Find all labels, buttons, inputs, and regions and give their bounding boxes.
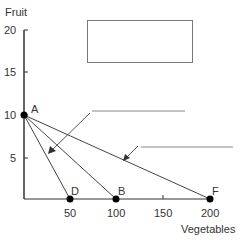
empty-annotation-box xyxy=(88,21,193,63)
x-tick-label-200: 200 xyxy=(201,208,219,219)
point-label-a: A xyxy=(31,104,38,115)
x-axis-label: Vegetables xyxy=(181,224,235,235)
x-tick-label-150: 150 xyxy=(154,208,172,219)
y-tick-label-5: 5 xyxy=(10,153,16,164)
line-a-d xyxy=(24,115,70,199)
x-tick-label-50: 50 xyxy=(64,208,76,219)
point-a xyxy=(21,112,28,119)
y-tick-label-15: 15 xyxy=(4,67,16,78)
point-label-d: D xyxy=(71,186,79,197)
point-label-f: F xyxy=(212,186,219,197)
y-tick-label-10: 10 xyxy=(4,110,16,121)
y-axis-label: Fruit xyxy=(5,7,27,18)
y-tick-label-20: 20 xyxy=(4,25,16,36)
line-a-b xyxy=(24,115,116,199)
ppf-chart: Fruit Vegetables 20 15 10 5 50 100 150 2… xyxy=(0,0,242,240)
line-a-f xyxy=(24,115,210,199)
point-label-b: B xyxy=(118,186,125,197)
annotation-1-leader xyxy=(50,113,90,152)
chart-canvas xyxy=(0,0,242,240)
x-tick-label-100: 100 xyxy=(107,208,125,219)
